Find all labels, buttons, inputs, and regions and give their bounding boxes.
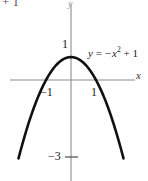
x-axis-label: x [136, 70, 141, 81]
equation-annotation: y = −x2 + 1 [88, 48, 138, 59]
x-tick-label-1: 1 [91, 86, 97, 98]
plot-canvas [0, 0, 148, 181]
parabola-figure: + 1 y x 1 −1 1 −3 y = −x2 + 1 [0, 0, 148, 181]
equation-exponent: 2 [117, 45, 121, 54]
equation-rhs-base: −x [105, 47, 117, 59]
y-tick-label-negative-3: −3 [48, 150, 61, 162]
y-tick-label-1: 1 [62, 38, 68, 50]
equation-equals: = [96, 47, 102, 59]
equation-tail: + 1 [123, 47, 137, 59]
equation-lhs: y [88, 47, 93, 59]
y-axis-label: y [68, 0, 72, 9]
x-tick-label-negative-1: −1 [40, 86, 53, 98]
